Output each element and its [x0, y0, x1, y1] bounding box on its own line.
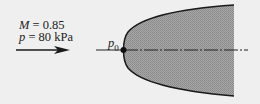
- pressure-value: = 80 kPa: [28, 30, 73, 44]
- pressure-label: p = 80 kPa: [19, 31, 73, 44]
- diagram-canvas: M = 0.85 p = 80 kPa p0: [0, 0, 260, 104]
- diagram-graphics: [0, 0, 260, 104]
- stagnation-pressure-label: p0: [108, 37, 119, 53]
- stagnation-point-icon: [121, 47, 127, 53]
- stagnation-subscript: 0: [114, 43, 119, 53]
- flow-arrow-icon: [16, 46, 70, 54]
- pressure-symbol: p: [19, 30, 25, 44]
